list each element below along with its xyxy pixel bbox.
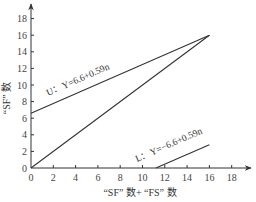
y-tick-label: 16 bbox=[17, 30, 27, 41]
y-tick-label: 10 bbox=[17, 80, 27, 91]
y-tick-label: 18 bbox=[17, 13, 27, 24]
x-tick-label: 12 bbox=[160, 172, 170, 183]
x-tick-label: 10 bbox=[138, 172, 148, 183]
x-tick-label: 4 bbox=[73, 172, 78, 183]
x-tick-label: 0 bbox=[29, 172, 34, 183]
x-tick-label: 2 bbox=[51, 172, 56, 183]
y-tick-label: 12 bbox=[17, 63, 27, 74]
x-axis-label: “SF” 数+ “FS” 数 bbox=[103, 186, 176, 198]
x-tick-label: 8 bbox=[118, 172, 123, 183]
x-tick-label: 18 bbox=[227, 172, 237, 183]
y-tick-label: 4 bbox=[22, 129, 27, 140]
y-tick-label: 2 bbox=[22, 146, 27, 157]
y-axis-label: “SF” 数 bbox=[0, 82, 12, 115]
y-tick-label: 8 bbox=[22, 96, 27, 107]
sequential-test-chart: 024681012141618024681012141618 U：Y=6.6+0… bbox=[0, 0, 256, 202]
annotation-l: L：Y=−6.6+0.59n bbox=[134, 126, 204, 164]
x-tick-label: 16 bbox=[204, 172, 214, 183]
y-tick-label: 0 bbox=[22, 163, 27, 174]
y-tick-label: 6 bbox=[22, 113, 27, 124]
series-lines bbox=[31, 35, 209, 168]
x-tick-label: 14 bbox=[182, 172, 192, 183]
y-tick-label: 14 bbox=[17, 46, 27, 57]
ticks: 024681012141618024681012141618 bbox=[17, 13, 237, 183]
x-tick-label: 6 bbox=[95, 172, 100, 183]
